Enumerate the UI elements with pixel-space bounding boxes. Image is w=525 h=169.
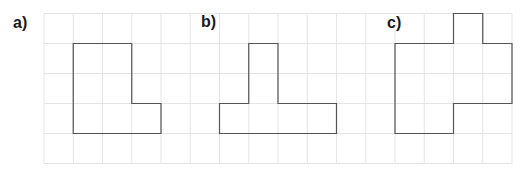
figure-label-c: c) — [386, 15, 402, 31]
grid-diagram — [0, 0, 525, 169]
figure-shape-a — [73, 44, 161, 134]
figure-label-a: a) — [12, 15, 28, 31]
figure-label-b: b) — [200, 14, 217, 30]
